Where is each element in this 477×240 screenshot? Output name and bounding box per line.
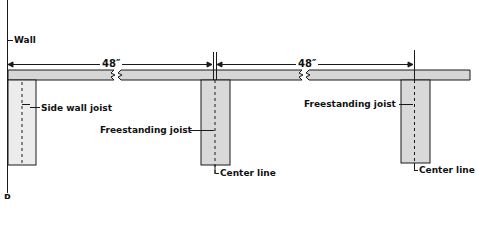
dimension-span-1: 48″ — [100, 59, 122, 69]
center-line-label-2: Center line — [419, 165, 475, 175]
beam-segment-2 — [118, 70, 303, 80]
beam-segment-3 — [306, 70, 470, 80]
freestanding-joist-1 — [190, 80, 230, 174]
freestanding-joist-label-1: Freestanding joist — [100, 125, 192, 135]
freestanding-joist-2 — [399, 80, 430, 171]
wall-label: Wall — [14, 35, 36, 45]
arrow-left-icon — [8, 62, 13, 67]
side-wall-joist — [8, 80, 36, 165]
arrow-right-icon — [408, 62, 413, 67]
side-wall-joist-label: Side wall joist — [41, 103, 112, 113]
dimension-span-2: 48″ — [296, 59, 318, 69]
center-line-label-1: Center line — [220, 168, 276, 178]
beam-segment-1 — [8, 70, 115, 80]
freestanding-joist-label-2: Freestanding joist — [304, 99, 396, 109]
arrow-left-icon — [217, 62, 222, 67]
arrow-right-icon — [207, 62, 212, 67]
corner-letter: P — [4, 193, 11, 199]
beam — [8, 70, 470, 80]
